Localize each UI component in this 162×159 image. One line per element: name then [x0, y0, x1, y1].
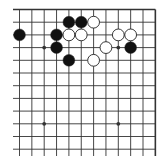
go-board-diagram [0, 0, 162, 159]
black-stone [51, 29, 63, 41]
white-stone [88, 16, 100, 28]
white-stone [63, 29, 75, 41]
black-stone [51, 42, 63, 54]
star-point [42, 46, 46, 50]
black-stone [63, 16, 75, 28]
black-stone [75, 16, 87, 28]
star-point [116, 46, 120, 50]
white-stone [112, 29, 124, 41]
white-stone [88, 54, 100, 66]
black-stone [63, 54, 75, 66]
black-stone [125, 42, 137, 54]
black-stone [14, 29, 26, 41]
star-point [116, 122, 120, 126]
star-point [42, 122, 46, 126]
white-stone [125, 29, 137, 41]
white-stone [75, 29, 87, 41]
white-stone [100, 42, 112, 54]
